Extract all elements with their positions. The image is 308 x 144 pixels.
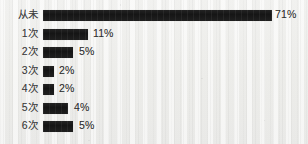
bar-value-label: 2% [59, 64, 74, 77]
bar [43, 66, 54, 77]
chart-row: 从未 71% [0, 9, 308, 22]
category-label: 1次 [0, 27, 38, 40]
bar [43, 121, 73, 132]
bar-value-label: 5% [79, 119, 94, 132]
category-label: 4次 [0, 82, 38, 95]
bar-value-label: 71% [275, 8, 296, 21]
bar-value-label: 2% [59, 82, 74, 95]
category-label: 3次 [0, 64, 38, 77]
bar [43, 10, 272, 21]
bar-value-label: 11% [93, 27, 114, 40]
bar-value-label: 5% [79, 45, 94, 58]
bar [43, 84, 54, 95]
bar-track: 4% [43, 102, 308, 115]
bar-track: 71% [43, 9, 308, 22]
bar [43, 29, 88, 40]
chart-row: 6次 5% [0, 120, 308, 133]
bar-value-label: 4% [74, 101, 89, 114]
scan-noise [120, 4, 121, 6]
bar-track: 5% [43, 120, 308, 133]
bar-track: 5% [43, 46, 308, 59]
bar-track: 2% [43, 83, 308, 96]
bar-track: 11% [43, 28, 308, 41]
chart-row: 1次 11% [0, 28, 308, 41]
category-label: 5次 [0, 101, 38, 114]
category-label: 2次 [0, 45, 38, 58]
bar [43, 47, 73, 58]
bar-track: 2% [43, 65, 308, 78]
scan-noise [88, 140, 90, 141]
chart-row: 3次 2% [0, 65, 308, 78]
category-label: 6次 [0, 119, 38, 132]
chart-row: 4次 2% [0, 83, 308, 96]
scan-noise [201, 78, 203, 79]
horizontal-bar-chart: 从未 71% 1次 11% 2次 5% 3次 2% 4次 2% [0, 0, 308, 144]
bar [43, 103, 68, 114]
chart-row: 2次 5% [0, 46, 308, 59]
category-label: 从未 [0, 8, 38, 21]
chart-row: 5次 4% [0, 102, 308, 115]
